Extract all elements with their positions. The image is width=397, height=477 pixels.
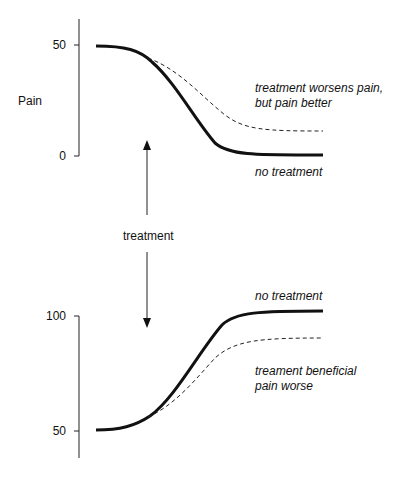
bottom-dashed-label-1: treament beneficial [255, 364, 356, 378]
top-solid-label: no treatment [255, 165, 322, 179]
bottom-solid-label: no treatment [255, 289, 322, 303]
top-tick-label-0: 0 [36, 149, 66, 163]
diagram-canvas [0, 0, 397, 477]
bottom-dashed-label-2: pain worse [255, 379, 313, 393]
up-arrow-icon [143, 140, 151, 150]
bottom-tick-label-100: 100 [36, 309, 66, 323]
bottom-tick-label-50: 50 [36, 424, 66, 438]
y-axis-label: Pain [18, 94, 42, 108]
top-tick-label-50: 50 [36, 38, 66, 52]
down-arrow-icon [143, 318, 151, 328]
top-dashed-label-1: treatment worsens pain, [255, 81, 383, 95]
top-dashed-label-2: but pain better [255, 96, 332, 110]
center-treatment-label: treatment [123, 229, 174, 243]
